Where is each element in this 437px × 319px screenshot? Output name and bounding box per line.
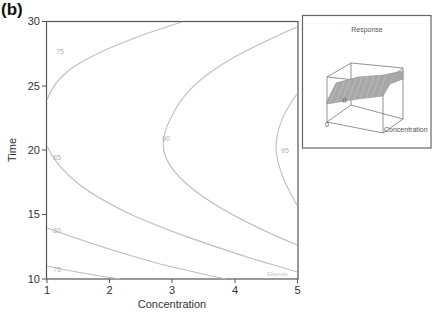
- contour-lines: [47, 22, 297, 279]
- contour-85: [47, 146, 297, 272]
- contour-label: 75: [53, 266, 61, 273]
- y-tick-label: 30: [28, 15, 40, 27]
- y-tick-label: 25: [28, 80, 40, 92]
- inset-x-label: Concentration: [384, 126, 428, 133]
- contour-label: 75: [56, 48, 64, 55]
- inset-title: Response: [351, 26, 383, 34]
- y-axis: [42, 22, 46, 280]
- x-tick-label: 3: [169, 284, 175, 296]
- contour-label: 95: [281, 147, 289, 154]
- contour-label: 90: [162, 135, 170, 142]
- x-tick-label: 4: [232, 284, 238, 296]
- inset-origin-label: 0: [325, 121, 329, 128]
- contour-label: 85: [53, 154, 61, 161]
- contour-label: 80: [53, 227, 61, 234]
- y-tick-label: 20: [28, 144, 40, 156]
- inset-3d-plot: Response 0 Concentr: [303, 16, 432, 149]
- x-tick-label: 2: [106, 284, 112, 296]
- watermark: Elsevier: [267, 271, 288, 277]
- contour-75-upper: [47, 22, 182, 100]
- y-tick-label: 15: [28, 208, 40, 220]
- x-tick-label: 5: [294, 284, 300, 296]
- contour-chart: 75 85 80 75 90 95 Elsevier 30 25 20 15 1…: [0, 0, 437, 319]
- y-axis-title: Time: [6, 138, 18, 162]
- x-tick-label: 1: [44, 284, 50, 296]
- y-tick-label: 10: [28, 273, 40, 285]
- x-axis-title: Concentration: [138, 298, 207, 310]
